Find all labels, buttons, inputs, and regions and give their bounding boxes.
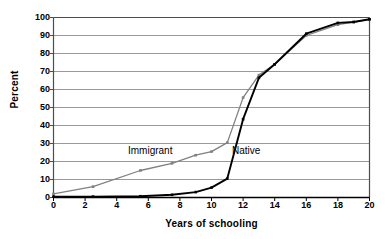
data-point-marker-native — [242, 118, 245, 121]
series-line-immigrant — [54, 19, 370, 194]
data-point-marker-immigrant — [52, 193, 55, 196]
data-point-marker-native — [352, 21, 355, 24]
x-tick-label: 20 — [355, 201, 385, 210]
x-axis-tick-marks — [50, 18, 370, 202]
x-tick-label: 0 — [39, 201, 69, 210]
data-point-marker-native — [171, 194, 174, 197]
data-point-marker-immigrant — [242, 96, 245, 99]
data-point-marker-immigrant — [171, 162, 174, 165]
x-tick-label: 12 — [228, 201, 258, 210]
data-point-marker-immigrant — [210, 150, 213, 153]
x-tick-label: 18 — [323, 201, 353, 210]
x-tick-label: 8 — [165, 201, 195, 210]
data-point-marker-native — [92, 195, 95, 198]
x-tick-label: 14 — [260, 201, 290, 210]
chart-figure: Percent 1009080706050403020100 024681012… — [0, 0, 386, 239]
data-point-marker-native — [226, 177, 229, 180]
x-tick-label: 10 — [197, 201, 227, 210]
data-point-marker-native — [210, 186, 213, 189]
x-axis-title: Years of schooling — [53, 218, 370, 229]
x-axis-tick-labels: 02468101214161820 — [0, 201, 386, 215]
x-tick-label: 4 — [102, 201, 132, 210]
series-label-immigrant: Immigrant — [128, 146, 172, 156]
gridlines — [54, 18, 370, 180]
data-point-marker-native — [194, 191, 197, 194]
x-tick-label: 6 — [133, 201, 163, 210]
data-point-marker-native — [337, 22, 340, 25]
data-point-marker-native — [139, 195, 142, 198]
data-point-marker-native — [368, 18, 371, 21]
x-tick-label: 16 — [291, 201, 321, 210]
data-point-marker-immigrant — [139, 169, 142, 172]
data-point-marker-native — [52, 195, 55, 198]
data-point-marker-native — [258, 77, 261, 80]
data-point-marker-immigrant — [226, 141, 229, 144]
series-label-native: Native — [232, 146, 260, 156]
data-point-marker-native — [305, 32, 308, 35]
data-point-marker-immigrant — [92, 185, 95, 188]
data-point-marker-immigrant — [194, 154, 197, 157]
x-tick-label: 2 — [70, 201, 100, 210]
data-point-marker-native — [273, 63, 276, 66]
